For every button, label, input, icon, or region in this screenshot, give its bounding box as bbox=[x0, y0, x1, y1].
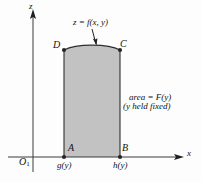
vertex-dot-D bbox=[62, 48, 66, 52]
vertex-dot-B bbox=[118, 155, 122, 159]
area-annotation-line2: (y held fixed) bbox=[123, 102, 171, 111]
origin-subscript: 1 bbox=[26, 160, 30, 168]
x-axis-label: x bbox=[187, 149, 191, 158]
area-annotation: area = F(y) (y held fixed) bbox=[129, 93, 171, 112]
vertex-label-A: A bbox=[68, 143, 74, 154]
surface-equation-label: z = f(x, y) bbox=[73, 18, 108, 27]
origin-label: O1 bbox=[19, 157, 30, 168]
vertex-label-B: B bbox=[122, 143, 128, 154]
vertex-label-D: D bbox=[53, 40, 60, 51]
vertex-label-C: C bbox=[120, 39, 127, 50]
right-bound-label: h(y) bbox=[113, 161, 128, 170]
z-axis-label: z bbox=[29, 2, 33, 11]
math-figure-cross-section: z x O1 z = f(x, y) D C A B g(y) h(y) are… bbox=[0, 0, 201, 182]
cross-section-region bbox=[64, 45, 120, 157]
vertex-dot-A bbox=[62, 155, 66, 159]
left-bound-label: g(y) bbox=[57, 161, 72, 170]
